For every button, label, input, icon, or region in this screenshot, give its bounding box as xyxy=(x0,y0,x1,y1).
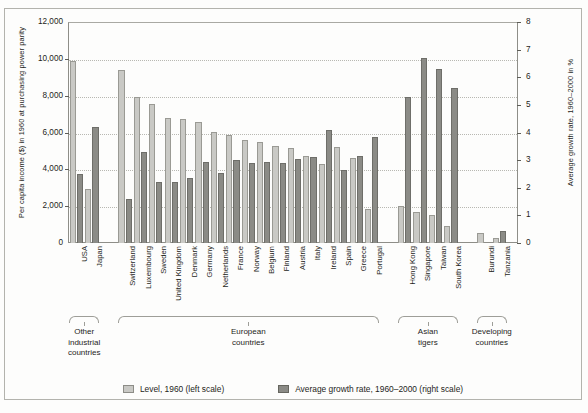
y-axis-right-tick-label: 7 xyxy=(526,45,556,54)
bar-group xyxy=(85,22,99,243)
group-brace-tick xyxy=(492,322,493,326)
bar-level-1960 xyxy=(165,118,171,243)
bar-growth-rate xyxy=(218,173,224,243)
bar-level-1960 xyxy=(319,164,325,243)
bar-growth-rate xyxy=(500,231,506,243)
bar-growth-rate xyxy=(341,170,347,243)
x-axis-tick-label: Belgium xyxy=(267,246,276,274)
legend-label: Average growth rate, 1960–2000 (right sc… xyxy=(295,384,463,394)
bar-group xyxy=(492,22,506,243)
bar-growth-rate xyxy=(203,162,209,243)
bar-growth-rate xyxy=(187,178,193,243)
y-axis-left-tick-label: 0 xyxy=(15,238,63,247)
group-label: Other industrial countries xyxy=(39,327,129,359)
bar-group xyxy=(179,22,193,243)
bar-level-1960 xyxy=(242,140,248,243)
bar-level-1960 xyxy=(288,148,294,243)
chart-legend: Level, 1960 (left scale)Average growth r… xyxy=(4,378,582,400)
bar-group xyxy=(118,22,132,243)
x-axis-tick-label: Netherlands xyxy=(221,246,230,288)
y-axis-right-tick-label: 1 xyxy=(526,210,556,219)
bar-level-1960 xyxy=(398,206,404,243)
bar-level-1960 xyxy=(493,238,499,243)
bar-growth-rate xyxy=(92,127,98,243)
x-axis-tick-label: Italy xyxy=(313,246,322,260)
x-axis-tick-label: Tanzania xyxy=(503,246,512,277)
bar-level-1960 xyxy=(429,215,435,243)
x-axis-tick-label: Austria xyxy=(298,246,307,270)
bar-group xyxy=(303,22,317,243)
bar-level-1960 xyxy=(134,97,140,243)
y-axis-left-tick-label: 4,000 xyxy=(15,164,63,173)
bar-group xyxy=(287,22,301,243)
bar-group xyxy=(397,22,411,243)
x-axis-tick-label: South Korea xyxy=(454,246,463,289)
bar-group xyxy=(226,22,240,243)
bar-group xyxy=(444,22,458,243)
bar-level-1960 xyxy=(350,158,356,243)
bar-growth-rate xyxy=(295,159,301,243)
bar-group xyxy=(241,22,255,243)
x-axis-tick-label: Spain xyxy=(344,246,353,266)
y-axis-left-tick-label: 10,000 xyxy=(15,54,63,63)
chart-figure: Per capita income ($) in 1960 at purchas… xyxy=(0,0,588,413)
bars-layer xyxy=(68,22,518,243)
bar-group xyxy=(272,22,286,243)
x-axis-tick-label: Hong Kong xyxy=(408,246,417,284)
bar-group xyxy=(413,22,427,243)
bar-group xyxy=(477,22,491,243)
y-axis-left-tick-label: 6,000 xyxy=(15,128,63,137)
y-axis-right-tick-label: 6 xyxy=(526,72,556,81)
bar-level-1960 xyxy=(272,146,278,243)
bar-growth-rate xyxy=(77,174,83,243)
bar-growth-rate xyxy=(172,182,178,243)
x-axis-tick-label: Finland xyxy=(282,246,291,271)
bar-level-1960 xyxy=(70,61,76,243)
bar-group xyxy=(318,22,332,243)
bar-group xyxy=(334,22,348,243)
bar-growth-rate xyxy=(126,199,132,243)
group-brace-tick xyxy=(84,322,85,326)
bar-level-1960 xyxy=(334,147,340,243)
bar-group xyxy=(364,22,378,243)
x-axis-tick-label: Luxembourg xyxy=(144,246,153,289)
bar-group xyxy=(428,22,442,243)
y-axis-right-tick-label: 0 xyxy=(526,238,556,247)
group-label: Developing countries xyxy=(447,327,537,348)
legend-item: Level, 1960 (left scale) xyxy=(123,384,224,394)
bar-growth-rate xyxy=(249,163,255,243)
bar-level-1960 xyxy=(118,70,124,243)
bar-growth-rate xyxy=(141,152,147,243)
bar-level-1960 xyxy=(257,142,263,243)
bar-group xyxy=(349,22,363,243)
bar-growth-rate xyxy=(436,69,442,243)
bar-level-1960 xyxy=(303,156,309,243)
bar-level-1960 xyxy=(365,209,371,243)
bar-growth-rate xyxy=(264,162,270,243)
bar-growth-rate xyxy=(310,157,316,243)
x-axis-tick-label: Burundi xyxy=(487,246,496,273)
bar-group xyxy=(256,22,270,243)
bar-growth-rate xyxy=(357,156,363,243)
x-axis-tick-label: Norway xyxy=(252,246,261,272)
legend-label: Level, 1960 (left scale) xyxy=(140,384,224,394)
group-brace-tick xyxy=(248,322,249,326)
x-axis-tick-label: Portugal xyxy=(375,246,384,275)
bar-group xyxy=(164,22,178,243)
bar-group xyxy=(210,22,224,243)
bar-growth-rate xyxy=(372,137,378,243)
legend-swatch-growth xyxy=(278,385,289,393)
bar-growth-rate xyxy=(156,182,162,243)
bar-group xyxy=(69,22,83,243)
x-axis-tick-label: Taiwan xyxy=(439,246,448,270)
y-axis-right-tick-label: 2 xyxy=(526,183,556,192)
y-axis-right-tick-label: 8 xyxy=(526,17,556,26)
y-axis-right-title: Average growth rate, 1960–2000 in % xyxy=(566,23,575,223)
x-axis-tick-label: France xyxy=(236,246,245,270)
group-braces: Other industrial countriesEuropean count… xyxy=(68,316,518,376)
bar-growth-rate xyxy=(326,130,332,243)
legend-swatch-level xyxy=(123,385,134,393)
x-axis-tick-label: Switzerland xyxy=(128,246,137,286)
bar-level-1960 xyxy=(413,212,419,243)
x-axis-tick-label: Japan xyxy=(95,246,104,267)
